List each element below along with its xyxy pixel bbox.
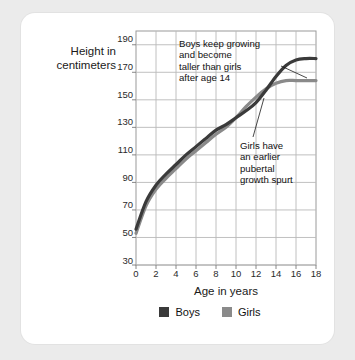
boys-color-swatch — [159, 307, 169, 317]
legend-label-girls: Girls — [238, 306, 261, 318]
girls-annotation: Girls have an earlier pubertal growth sp… — [240, 140, 322, 186]
legend-item-boys: Boys — [159, 306, 199, 318]
legend-item-girls: Girls — [222, 306, 261, 318]
height-growth-chart: Height in centimeters Age in years 30 50… — [0, 0, 355, 360]
chart-legend: Boys Girls — [120, 306, 300, 318]
screenshot-root: Height in centimeters Age in years 30 50… — [0, 0, 355, 360]
girls-color-swatch — [222, 307, 232, 317]
boys-annotation: Boys keep growing and become taller than… — [179, 38, 291, 84]
legend-label-boys: Boys — [175, 306, 199, 318]
